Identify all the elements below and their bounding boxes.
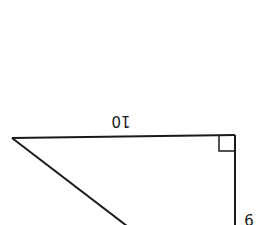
right-triangle-diagram: 10 9 (0, 0, 270, 225)
triangle-side-top (12, 135, 235, 138)
right-angle-marker (219, 135, 235, 151)
label-right-side: 9 (244, 210, 254, 225)
label-top-side: 10 (111, 112, 130, 130)
triangle-hypotenuse (12, 138, 127, 225)
